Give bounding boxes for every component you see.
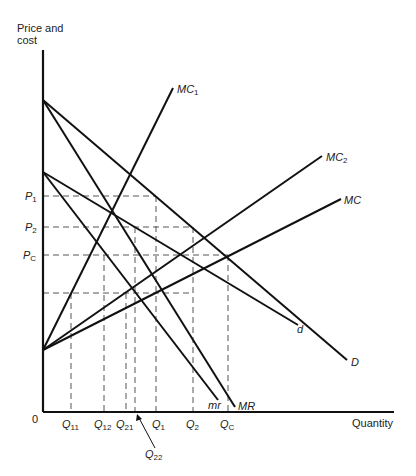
curve-label-mr-small: mr	[208, 399, 221, 411]
quantity-label-q21: Q21	[116, 418, 133, 434]
marginal-revenue-MR-curve	[43, 100, 235, 407]
y-axis-label-line1: Price and	[17, 22, 63, 34]
origin-label: 0	[32, 413, 38, 425]
quantity-label-q12: Q12	[94, 418, 111, 434]
marginal-revenue-mr-curve	[43, 172, 218, 400]
curve-label-D: D	[351, 356, 359, 368]
curve-label-d-small: d	[297, 323, 303, 335]
price-label-p2: P2	[25, 221, 37, 237]
y-axis-label-line2: cost	[17, 34, 37, 46]
quantity-label-qc: QC	[220, 418, 234, 434]
curve-label-mc2: MC2	[326, 151, 348, 167]
price-label-pc: PC	[23, 249, 36, 265]
curve-label-mc: MC	[344, 194, 361, 206]
curves	[43, 88, 347, 407]
marginal-cost-MC1-curve	[43, 88, 173, 350]
price-label-p1: P1	[25, 190, 37, 206]
x-axis-label: Quantity	[352, 417, 393, 429]
quantity-label-q11: Q11	[62, 418, 79, 434]
quantity-label-q2: Q2	[186, 418, 199, 434]
curve-label-MR: MR	[238, 400, 255, 412]
marginal-cost-MC2-curve	[43, 156, 322, 350]
axes	[43, 50, 394, 412]
quantity-label-q1: Q1	[152, 418, 165, 434]
curve-label-mc1: MC1	[177, 83, 199, 99]
quantity-label-q22: Q22	[145, 448, 162, 464]
